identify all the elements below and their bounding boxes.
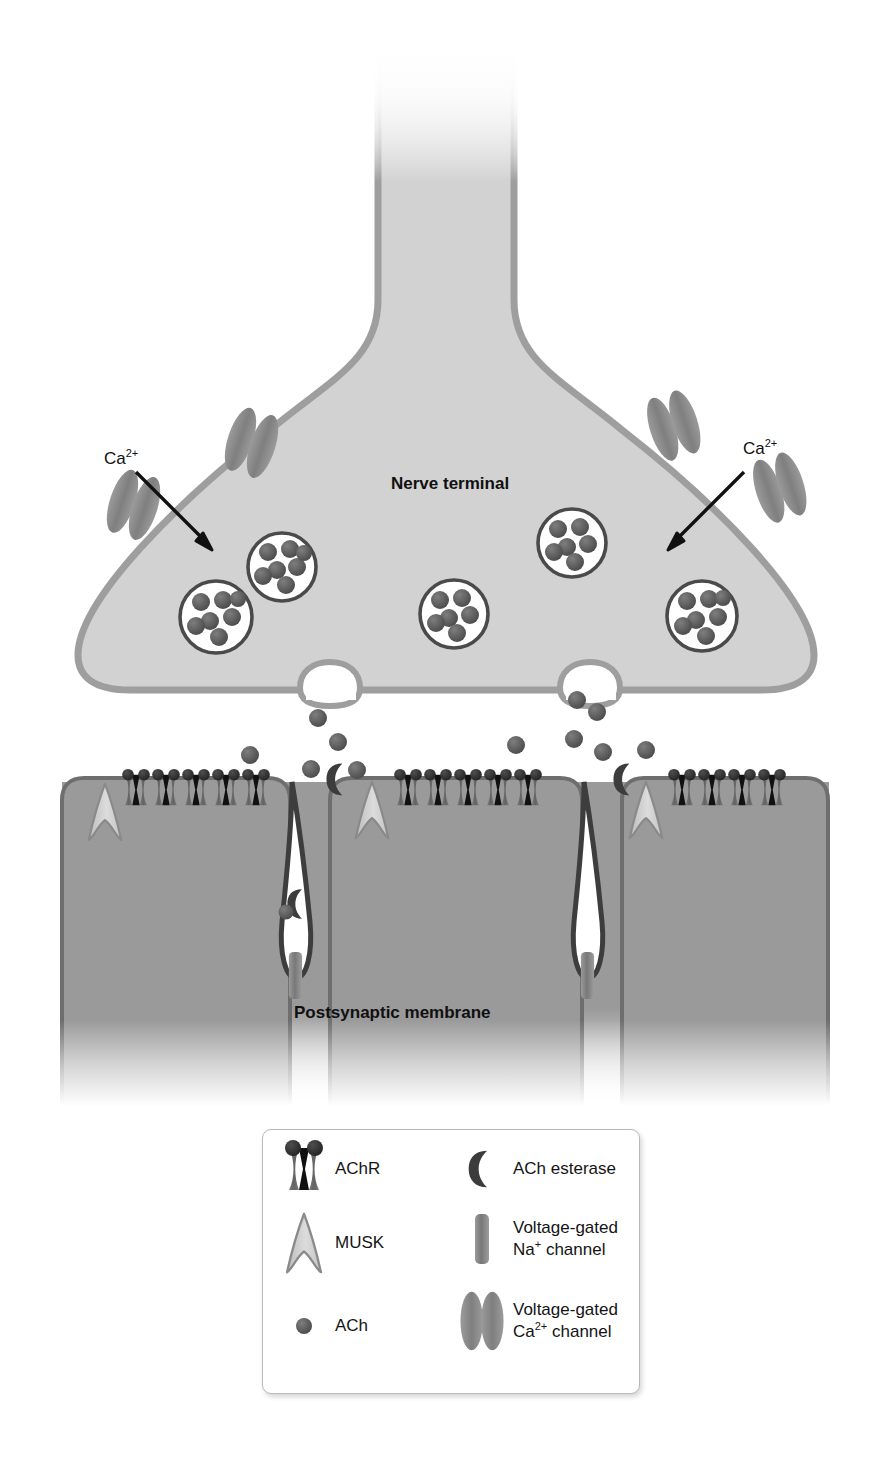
legend-item-musk: MUSK	[273, 1212, 384, 1274]
legend-label-cav-tail: channel	[547, 1322, 611, 1341]
ach-dot-icon	[565, 730, 583, 748]
calcium-label-right-charge: 2+	[765, 437, 778, 449]
legend-panel: AChR MUSK ACh ACh esterase	[262, 1129, 640, 1394]
calcium-label-left: Ca2+	[104, 447, 138, 469]
legend-item-calcium-channel: Voltage-gated Ca2+ channel	[451, 1290, 618, 1352]
ach-dot-icon	[302, 760, 320, 778]
legend-item-ach: ACh	[273, 1295, 368, 1357]
ach-dot-icon	[568, 691, 586, 709]
legend-item-sodium-channel: Voltage-gated Na+ channel	[451, 1208, 618, 1270]
ach-dot-icon	[241, 746, 259, 764]
musk-icon	[273, 1212, 335, 1274]
legend-label-nav-tail: channel	[541, 1240, 605, 1259]
legend-label-calcium-channel: Voltage-gated Ca2+ channel	[513, 1300, 618, 1342]
legend-label-nav-ion: Na	[513, 1240, 535, 1259]
sodium-channel-icon	[581, 952, 594, 999]
sodium-channel-icon	[289, 952, 302, 999]
ach-dot-icon	[348, 761, 366, 779]
vesicle	[667, 581, 737, 651]
ach-dot-icon	[329, 733, 347, 751]
vesicle	[538, 509, 606, 577]
ach-dot-icon	[309, 709, 327, 727]
ach-esterase-icon	[451, 1138, 513, 1200]
calcium-channel-icon	[747, 449, 813, 526]
legend-label-achr: AChR	[335, 1159, 380, 1179]
legend-label-cav-ion: Ca	[513, 1322, 535, 1341]
ach-dot-icon	[507, 736, 525, 754]
legend-item-ach-esterase: ACh esterase	[451, 1138, 616, 1200]
calcium-label-left-text: Ca	[104, 449, 126, 468]
calcium-label-right-text: Ca	[743, 439, 765, 458]
released-ach	[241, 691, 655, 779]
ach-dot-icon	[273, 1295, 335, 1357]
legend-label-nav-line1: Voltage-gated	[513, 1218, 618, 1237]
legend-item-achr: AChR	[273, 1138, 380, 1200]
legend-label-cav-line1: Voltage-gated	[513, 1300, 618, 1319]
sodium-channel-icon	[451, 1208, 513, 1270]
vesicle	[420, 580, 488, 648]
legend-label-cav-charge: 2+	[535, 1320, 548, 1332]
legend-label-sodium-channel: Voltage-gated Na+ channel	[513, 1218, 618, 1260]
postsynaptic-membrane-label: Postsynaptic membrane	[294, 1003, 491, 1023]
ach-dot-icon	[588, 703, 606, 721]
legend-label-musk: MUSK	[335, 1233, 384, 1253]
figure-canvas: Nerve terminal Postsynaptic membrane Ca2…	[0, 0, 891, 1463]
legend-label-ach-esterase: ACh esterase	[513, 1159, 616, 1179]
nerve-terminal-label: Nerve terminal	[391, 474, 509, 494]
achr-icon	[273, 1138, 335, 1200]
vesicle	[180, 581, 252, 653]
calcium-label-left-charge: 2+	[126, 447, 139, 459]
vesicle	[248, 533, 316, 601]
calcium-label-right: Ca2+	[743, 437, 777, 459]
legend-label-ach: ACh	[335, 1316, 368, 1336]
ach-dot-icon	[279, 905, 294, 920]
ach-dot-icon	[594, 743, 612, 761]
ach-dot-icon	[637, 741, 655, 759]
calcium-channel-icon	[451, 1290, 513, 1352]
